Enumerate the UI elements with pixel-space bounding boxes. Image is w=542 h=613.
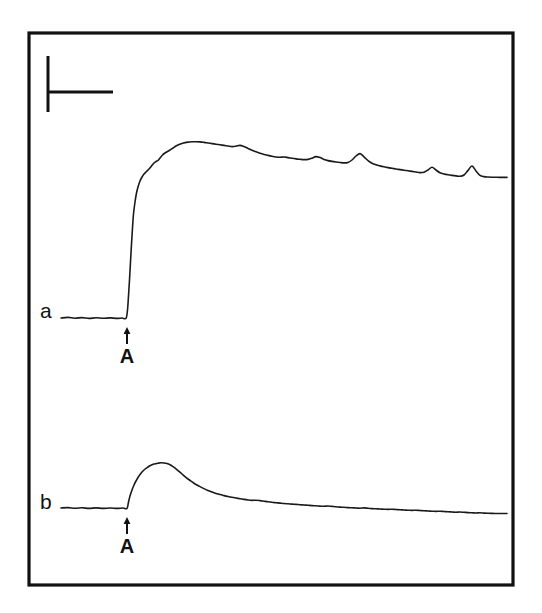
figure-container: a A b A	[0, 0, 542, 613]
stimulus-label-b: A	[120, 535, 134, 557]
trace-line-a	[61, 142, 507, 319]
stimulus-arrowhead-icon-a	[124, 327, 131, 334]
panel-b: b A	[40, 463, 507, 557]
calibration-scale-bar	[48, 56, 113, 112]
stimulus-marker-b	[124, 517, 131, 534]
stimulus-label-a: A	[120, 345, 134, 367]
trace-line-b	[61, 463, 507, 514]
trace-figure: a A b A	[0, 0, 542, 613]
stimulus-arrowhead-icon-b	[124, 517, 131, 524]
panel-label-b: b	[40, 490, 52, 513]
panel-a: a A	[40, 142, 507, 367]
stimulus-marker-a	[124, 327, 131, 344]
panel-label-a: a	[40, 299, 52, 322]
